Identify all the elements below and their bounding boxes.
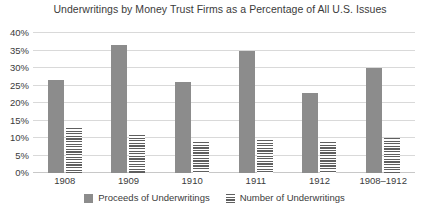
bar-group bbox=[288, 33, 352, 173]
x-tick-label: 1909 bbox=[118, 175, 139, 187]
legend-swatch-number-icon bbox=[226, 194, 235, 203]
bar-proceeds bbox=[366, 68, 382, 173]
bar-proceeds bbox=[239, 51, 255, 174]
x-axis: 190819091910191119121908–1912 bbox=[33, 175, 415, 189]
x-tick-label: 1908 bbox=[54, 175, 75, 187]
plot-area bbox=[33, 33, 415, 173]
bar-group bbox=[160, 33, 224, 173]
y-tick-label: 10% bbox=[0, 133, 29, 143]
y-tick-label: 30% bbox=[0, 63, 29, 73]
y-tick-label: 5% bbox=[0, 151, 29, 161]
bar-number bbox=[384, 138, 400, 173]
x-tick-label: 1908–1912 bbox=[359, 175, 407, 187]
bar-group bbox=[224, 33, 288, 173]
y-tick-label: 0% bbox=[0, 168, 29, 178]
bar-proceeds bbox=[111, 45, 127, 173]
legend-swatch-proceeds-icon bbox=[84, 194, 93, 203]
chart-legend: Proceeds of UnderwritingsNumber of Under… bbox=[0, 193, 429, 203]
bar-group bbox=[33, 33, 97, 173]
chart-title: Underwritings by Money Trust Firms as a … bbox=[30, 3, 410, 16]
legend-label: Proceeds of Underwritings bbox=[98, 193, 209, 203]
x-tick-label: 1910 bbox=[182, 175, 203, 187]
bar-proceeds bbox=[48, 80, 64, 173]
y-axis: 40%35%30%25%20%15%10%5%0% bbox=[0, 33, 29, 173]
bar-number bbox=[129, 135, 145, 174]
x-tick-label: 1911 bbox=[246, 175, 266, 187]
bars-layer bbox=[33, 33, 415, 173]
bar-group bbox=[97, 33, 161, 173]
bar-group bbox=[351, 33, 415, 173]
y-tick-label: 25% bbox=[0, 81, 29, 91]
y-tick-label: 40% bbox=[0, 28, 29, 38]
bar-proceeds bbox=[302, 93, 318, 174]
legend-item: Number of Underwritings bbox=[226, 193, 345, 203]
y-tick-label: 20% bbox=[0, 98, 29, 108]
y-tick-label: 15% bbox=[0, 116, 29, 126]
y-tick-label: 35% bbox=[0, 46, 29, 56]
legend-label: Number of Underwritings bbox=[240, 193, 345, 203]
legend-item: Proceeds of Underwritings bbox=[84, 193, 209, 203]
bar-number bbox=[257, 140, 273, 173]
bar-proceeds bbox=[175, 82, 191, 173]
x-tick-label: 1912 bbox=[309, 175, 330, 187]
bar-number bbox=[193, 142, 209, 174]
bar-number bbox=[320, 142, 336, 174]
bar-number bbox=[66, 128, 82, 174]
bar-chart: Underwritings by Money Trust Firms as a … bbox=[0, 0, 429, 221]
